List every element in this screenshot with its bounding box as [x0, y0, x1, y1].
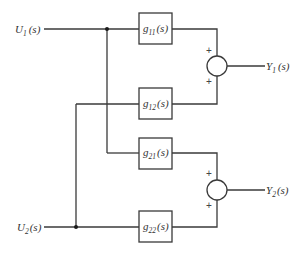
output-label-y2: Y2(s)	[266, 184, 289, 199]
input-label-u1: U1(s)	[15, 23, 41, 38]
block-g22: g22(s)	[139, 211, 172, 242]
block-g21: g21(s)	[139, 138, 172, 169]
u2-branch-point	[74, 225, 78, 229]
mimo-block-diagram: g11(s) g12(s) g21(s) g22(s) + + + + U1(s…	[0, 0, 306, 254]
plus-sign: +	[206, 76, 212, 87]
output-label-y1: Y1(s)	[266, 60, 290, 75]
plus-sign: +	[206, 45, 212, 56]
plus-sign: +	[206, 200, 212, 211]
plus-sign: +	[206, 168, 212, 179]
input-u1-wire	[44, 27, 139, 153]
block-g12: g12(s)	[139, 88, 172, 119]
input-u2-wire	[44, 104, 139, 229]
u1-branch-point	[105, 27, 109, 31]
input-label-u2: U2(s)	[17, 221, 42, 236]
block-g11: g11(s)	[139, 13, 172, 44]
